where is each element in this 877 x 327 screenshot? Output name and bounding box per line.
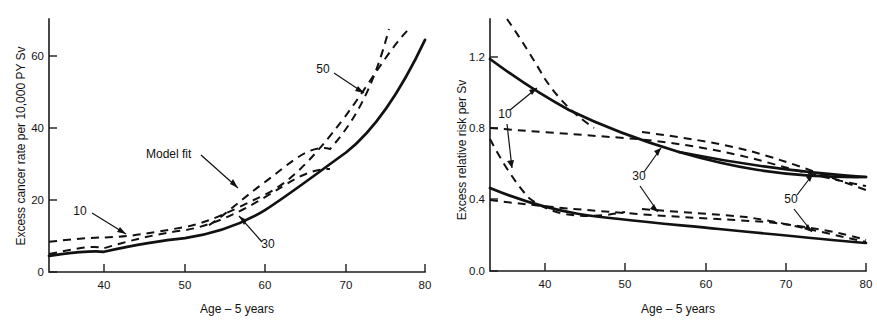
right-xtick-label-70: 70 [780,278,793,290]
right-axis-lines [490,19,866,271]
left-annotation-50-label: 50 [316,62,330,76]
left-x-axis-title: Age – 5 years [200,302,274,316]
left-annotation-model-fit: Model fit [146,147,238,188]
right-xtick-label-80: 80 [860,278,873,290]
right-curve-model-fit-upper [490,59,866,177]
left-xtick-label-60: 60 [259,279,272,291]
right-y-axis-title: Excess relative risk per Sv [455,80,469,221]
left-curve-model-fit [49,40,425,256]
left-curve-10 [49,29,409,242]
left-y-ticks [49,56,57,272]
right-ytick-label-08: 0.8 [469,122,485,134]
right-xtick-label-60: 60 [700,278,713,290]
left-annotation-10-label: 10 [73,204,87,218]
left-ytick-label-20: 20 [31,194,44,206]
left-xtick-label-50: 50 [179,279,192,291]
left-xtick-label-40: 40 [98,279,111,291]
right-annotation-50-label: 50 [784,192,798,206]
right-curve-10-upper [507,19,594,128]
left-xtick-label-80: 80 [419,279,432,291]
right-annotation-50: 50 [784,174,813,232]
left-x-ticks [104,264,425,272]
left-annotation-30-label: 30 [261,237,275,251]
right-annotation-10-label: 10 [498,107,512,121]
left-curve-50 [209,29,389,225]
left-annotation-10: 10 [73,204,126,234]
left-annotation-model-fit-label: Model fit [146,147,192,161]
right-ytick-label-00: 0.0 [469,265,485,277]
left-chart-panel: 0 20 40 60 40 50 60 70 80 Age – 5 years … [0,0,438,327]
right-chart-panel: 0.0 0.4 0.8 1.2 40 50 60 70 80 Age – 5 y… [439,0,877,327]
left-xtick-label-70: 70 [340,279,353,291]
figure-root: 0 20 40 60 40 50 60 70 80 Age – 5 years … [0,0,877,327]
right-chart-svg: 0.0 0.4 0.8 1.2 40 50 60 70 80 Age – 5 y… [439,0,877,327]
right-x-ticks [545,263,866,271]
right-annotation-30: 30 [632,148,661,212]
right-xtick-label-40: 40 [539,278,552,290]
left-chart-svg: 0 20 40 60 40 50 60 70 80 Age – 5 years … [0,0,438,327]
right-curve-50-upper [642,132,866,190]
right-curve-model-fit-lower [490,188,866,243]
left-axis-lines [49,19,425,272]
right-y-ticks [490,57,498,271]
right-x-axis-title: Age – 5 years [641,302,715,316]
left-y-axis-title: Excess cancer rate per 10,000 PY Sv [14,46,28,245]
right-xtick-label-50: 50 [619,278,632,290]
right-ytick-label-12: 1.2 [469,51,485,63]
right-ytick-label-04: 0.4 [469,193,486,205]
right-annotation-10: 10 [498,88,537,168]
left-curve-30 [49,169,330,254]
left-annotation-50: 50 [316,62,364,93]
left-ytick-label-60: 60 [31,50,44,62]
left-ytick-label-40: 40 [31,122,44,134]
left-ytick-label-0: 0 [38,266,44,278]
left-annotation-30: 30 [239,216,275,251]
